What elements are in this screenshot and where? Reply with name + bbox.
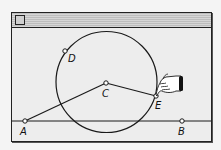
label-d: D [68,53,76,64]
hand-cursor-icon [156,74,183,96]
label-e: E [155,100,162,111]
geometry-diagram: A B C D E [0,0,221,150]
point-c[interactable] [104,81,108,85]
segment-ce[interactable] [106,83,156,96]
segment-ac[interactable] [25,83,106,121]
label-c: C [102,88,109,99]
label-b: B [178,126,185,137]
point-b[interactable] [180,119,184,123]
label-a: A [19,126,27,137]
point-a[interactable] [23,119,27,123]
point-d[interactable] [63,49,67,53]
